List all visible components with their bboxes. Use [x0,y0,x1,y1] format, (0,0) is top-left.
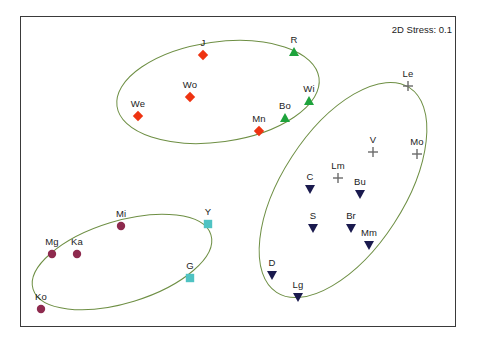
point-label-G: G [186,260,194,271]
point-label-D: D [269,257,276,268]
mds-ordination-plot: JWoWeMnRWiBoLeVMoLmCBuSBrMmDLgMiMgKaKoYG… [0,0,480,344]
point-label-Bu: Bu [354,176,366,187]
point-label-Lm: Lm [331,160,344,171]
point-label-Ko: Ko [35,291,47,302]
point-label-Mm: Mm [361,227,377,238]
point-label-Mg: Mg [45,236,58,247]
point-label-Ka: Ka [71,236,83,247]
point-label-Mo: Mo [410,136,423,147]
point-label-Le: Le [403,68,414,79]
point-label-Wo: Wo [183,79,197,90]
point-label-Bo: Bo [279,100,291,111]
point-label-V: V [370,134,376,145]
point-label-Y: Y [205,206,211,217]
point-label-Br: Br [346,210,356,221]
plot-frame-border [20,16,456,327]
point-label-Wi: Wi [303,83,314,94]
point-label-J: J [201,37,206,48]
point-label-C: C [307,171,314,182]
stress-annotation: 2D Stress: 0.1 [392,24,452,35]
point-label-Lg: Lg [293,279,304,290]
point-label-R: R [291,34,298,45]
point-label-Mi: Mi [116,208,126,219]
point-label-We: We [131,98,145,109]
point-label-Mn: Mn [252,113,265,124]
point-label-S: S [310,210,316,221]
